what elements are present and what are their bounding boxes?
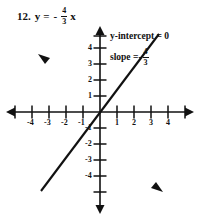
x-axis-label-3: 3 <box>149 119 153 127</box>
y-axis-top-arrowhead <box>96 26 105 35</box>
y-axis-label-1: 1 <box>88 92 92 100</box>
x-axis-label-1: 1 <box>115 119 119 127</box>
y-axis-label-3: 3 <box>88 60 92 68</box>
x-axis-label-2: 2 <box>132 119 136 127</box>
x-axis-right-arrowhead <box>185 108 194 117</box>
y-axis-bottom-arrowhead <box>96 205 105 214</box>
x-axis-left-arrowhead <box>6 108 15 117</box>
x-axis-label--1: -1 <box>78 119 85 127</box>
x-axis-label--3: -3 <box>44 119 51 127</box>
x-axis-label-4: 4 <box>166 119 170 127</box>
x-axis-label--2: -2 <box>61 119 68 127</box>
x-axis-label--4: -4 <box>27 119 34 127</box>
y-axis-label--2: -2 <box>85 140 92 148</box>
line-arrowhead-upper-left <box>38 54 50 64</box>
y-axis-label-4: 4 <box>88 44 92 52</box>
y-axis-label-2: 2 <box>88 76 92 84</box>
line-arrowhead-lower-right <box>151 182 163 192</box>
coordinate-plane: -4 -3 -2 -1 1 2 3 4 4 3 2 1 -1 -2 -3 -4 <box>0 0 200 223</box>
y-axis-label--3: -3 <box>85 156 92 164</box>
y-axis-label--1: -1 <box>85 124 92 132</box>
worksheet-graph-figure: 12. y = - 4 3 x y-intercept = 0 slope = … <box>0 0 200 223</box>
y-axis-label--4: -4 <box>85 172 92 180</box>
